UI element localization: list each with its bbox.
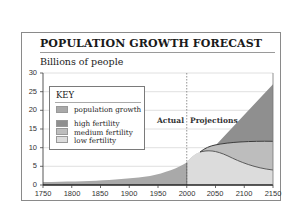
x-tick-1850: 1850	[88, 189, 112, 198]
legend-divider	[55, 102, 141, 103]
high-fertility-swatch	[56, 120, 68, 127]
population-growth-area	[43, 163, 187, 186]
population-growth-swatch	[56, 106, 68, 113]
x-tick-2000: 2000	[175, 189, 199, 198]
x-tick-2050: 2050	[203, 189, 227, 198]
x-tick-2150: 2150	[261, 189, 285, 198]
x-tick-1800: 1800	[60, 189, 84, 198]
y-tick-20: 20	[21, 105, 37, 114]
legend: KEY population growth high fertility med…	[49, 86, 145, 150]
y-tick-10: 10	[21, 143, 37, 152]
x-tick-1950: 1950	[146, 189, 170, 198]
y-tick-30: 30	[21, 68, 37, 77]
x-tick-1900: 1900	[117, 189, 141, 198]
legend-population-growth: population growth	[74, 105, 141, 114]
actual-label: Actual	[157, 116, 184, 125]
y-tick-0: 0	[21, 180, 37, 189]
x-tick-2100: 2100	[232, 189, 256, 198]
y-tick-5: 5	[21, 161, 37, 170]
medium-fertility-swatch	[56, 128, 68, 135]
projections-label: Projections	[190, 116, 238, 125]
plot-area	[0, 0, 297, 212]
y-tick-15: 15	[21, 124, 37, 133]
legend-low-fertility: low fertility	[74, 136, 116, 145]
legend-title: KEY	[56, 90, 74, 100]
y-tick-25: 25	[21, 87, 37, 96]
x-tick-1750: 1750	[31, 189, 55, 198]
low-fertility-swatch	[56, 136, 68, 143]
